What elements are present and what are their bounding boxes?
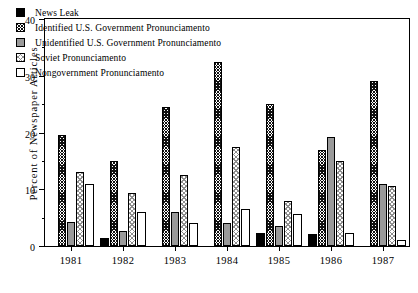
bar	[345, 233, 353, 246]
bar	[180, 175, 188, 246]
y-axis-minor-tick	[42, 218, 46, 219]
legend-swatch-icon	[16, 38, 25, 47]
legend-item: Nongovernment Pronunciamento	[16, 65, 221, 80]
legend-swatch-icon	[16, 53, 25, 62]
legend-item-label: Unidentified U.S. Government Pronunciame…	[35, 38, 221, 48]
legend-item-label: Soviet Pronunciamento	[35, 53, 126, 63]
legend-item-label: News Leak	[35, 8, 79, 18]
bar	[327, 137, 335, 246]
x-axis-tick-label: 1983	[164, 255, 187, 266]
x-axis-tick	[331, 246, 332, 251]
bar	[308, 234, 316, 246]
bar	[137, 212, 145, 246]
bar	[214, 62, 222, 246]
bar-chart: Percent of Newspaper Articles 010203040 …	[0, 0, 418, 293]
y-axis-minor-tick	[42, 161, 46, 162]
y-axis-tick-label: 0	[30, 242, 35, 253]
bar	[76, 172, 84, 246]
x-axis-tick-label: 1985	[268, 255, 291, 266]
legend-item-label: Identified U.S. Government Pronunciament…	[35, 23, 210, 33]
y-axis-tick: 0	[39, 246, 45, 247]
bar	[284, 201, 292, 246]
legend-swatch-icon	[16, 23, 25, 32]
bar	[336, 161, 344, 246]
bar	[189, 223, 197, 246]
x-axis-tick	[123, 246, 124, 251]
bar	[100, 238, 108, 247]
bar	[318, 150, 326, 246]
legend-item: Soviet Pronunciamento	[16, 50, 221, 65]
bar	[223, 223, 231, 246]
chart-legend: News LeakIdentified U.S. Government Pron…	[16, 5, 221, 80]
bar	[388, 186, 396, 246]
x-axis-tick	[71, 246, 72, 251]
bar	[110, 161, 118, 246]
bar	[171, 212, 179, 246]
legend-item: News Leak	[16, 5, 221, 20]
bar	[266, 104, 274, 246]
x-axis-tick-label: 1984	[216, 255, 239, 266]
bar	[241, 209, 249, 246]
bar	[119, 231, 127, 246]
bar	[67, 222, 75, 246]
bar	[275, 226, 283, 246]
x-axis-tick	[227, 246, 228, 251]
x-axis-tick	[383, 246, 384, 251]
y-axis-tick: 20	[39, 133, 45, 134]
bar	[162, 107, 170, 246]
y-axis-tick-label: 20	[25, 128, 35, 139]
bar	[128, 193, 136, 246]
bar	[58, 135, 66, 246]
x-axis-tick	[279, 246, 280, 251]
x-axis-tick-label: 1987	[372, 255, 395, 266]
bar	[85, 184, 93, 246]
y-axis-minor-tick	[42, 104, 46, 105]
bar	[256, 233, 264, 246]
legend-swatch-icon	[16, 8, 25, 17]
legend-item: Unidentified U.S. Government Pronunciame…	[16, 35, 221, 50]
bar	[397, 240, 405, 246]
y-axis-tick: 10	[39, 189, 45, 190]
legend-item-label: Nongovernment Pronunciamento	[35, 68, 164, 78]
bar	[379, 184, 387, 246]
x-axis-tick-label: 1986	[320, 255, 343, 266]
x-axis-tick	[175, 246, 176, 251]
x-axis-tick-label: 1982	[112, 255, 135, 266]
bar	[232, 147, 240, 246]
legend-item: Identified U.S. Government Pronunciament…	[16, 20, 221, 35]
bar	[370, 81, 378, 246]
legend-swatch-icon	[16, 68, 25, 77]
bar	[293, 214, 301, 246]
y-axis-tick-label: 10	[25, 185, 35, 196]
x-axis-tick-label: 1981	[60, 255, 83, 266]
